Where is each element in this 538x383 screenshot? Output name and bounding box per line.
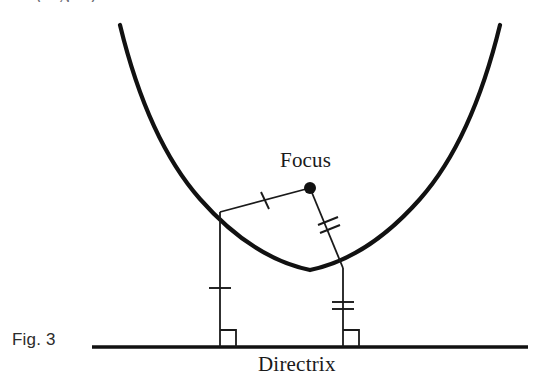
figure-page: (Fig. 3) Focus Directrix Fi xyxy=(0,0,538,383)
right-angle-mark-foot1 xyxy=(220,330,236,347)
focus-label: Focus xyxy=(280,148,331,173)
tick-double-b-segment-focus-p2 xyxy=(320,225,340,233)
tick-double-a-segment-focus-p2 xyxy=(318,217,338,225)
directrix-label: Directrix xyxy=(258,352,336,377)
right-angle-mark-foot2 xyxy=(343,330,359,347)
parabola-diagram xyxy=(0,0,538,383)
figure-caption: Fig. 3 xyxy=(12,330,56,350)
focus-point-dot xyxy=(304,182,316,194)
segment-focus-to-p2 xyxy=(310,188,343,268)
